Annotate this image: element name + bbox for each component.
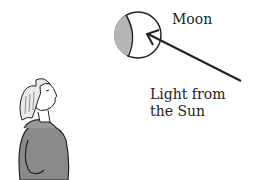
moon-phase-diagram: Moon Light from the Sun [0,0,257,180]
moon-icon [114,12,161,58]
observer-person-icon [19,79,69,180]
light-label-line-2: the Sun [150,103,255,120]
light-label-line-1: Light from [150,86,255,103]
moon-label: Moon [172,11,212,28]
light-from-sun-label: Light from the Sun [150,86,255,120]
